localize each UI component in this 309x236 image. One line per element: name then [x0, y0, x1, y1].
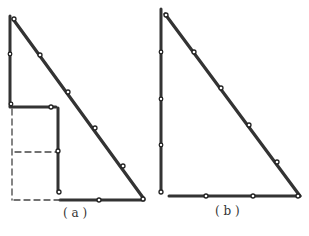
hinge-icons-b: [159, 13, 300, 198]
rod-hypotenuse-a: [13, 19, 144, 199]
figure-label-b: ( b ): [215, 204, 240, 218]
diagram-canvas: [0, 0, 309, 236]
figure-b: [159, 9, 300, 198]
figure-a: [8, 16, 145, 202]
figure-label-a: ( a ): [63, 206, 87, 220]
rod-hypotenuse-b: [165, 14, 300, 196]
dashed-guides: [12, 109, 60, 200]
